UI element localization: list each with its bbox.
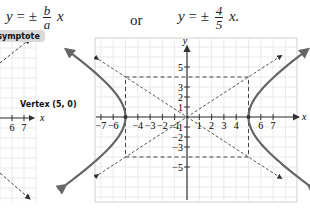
x-tick-label: 3 [221, 120, 226, 131]
x-tick-label: −6 [108, 120, 119, 131]
x-tick-label: 1 [197, 120, 202, 131]
x-tick-label: −3 [145, 120, 156, 131]
y-tick-label: 5 [178, 62, 183, 73]
x-tick-label: −2 [157, 120, 168, 131]
x-tick-label: 7 [271, 120, 276, 131]
y-tick-label: 1 [178, 102, 183, 113]
y-tick-label: −5 [172, 162, 183, 173]
x-tick-label: 6 [258, 120, 263, 131]
y-tick-label: −3 [172, 142, 183, 153]
hyperbola-graph: xy −7−6−4−3−2−11234675321−1−2−3−5 [0, 0, 310, 210]
vertex-point [124, 115, 128, 119]
vertex-point [247, 115, 251, 119]
x-axis-label: x [301, 111, 307, 122]
x-tick-label: 4 [234, 120, 239, 131]
x-tick-label: −4 [132, 120, 143, 131]
x-tick-label: 2 [209, 120, 214, 131]
y-axis-label: y [182, 35, 188, 46]
x-tick-label: −7 [96, 120, 107, 131]
